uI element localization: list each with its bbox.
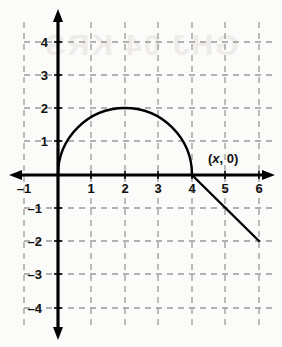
y-tick-label-neg1: –1 [20,202,42,215]
coordinate-plane [0,0,282,347]
x-tick-label-1: 1 [80,182,102,195]
y-tick-label-neg2: –2 [20,235,42,248]
x-tick-label-neg1: –1 [13,182,35,195]
x-tick-label-2: 2 [114,182,136,195]
y-tick-label-neg3: –3 [20,268,42,281]
x-axis-arrow-left [9,170,22,180]
annotation-suffix: , 0) [220,151,239,166]
y-tick-label-2: 2 [26,102,48,115]
x-axis-point-label: (x, 0) [208,152,238,165]
annotation-variable: x [212,151,219,166]
x-tick-label-3: 3 [147,182,169,195]
x-tick-label-6: 6 [248,182,270,195]
axes [9,9,275,340]
x-axis-arrow-right [262,170,275,180]
y-tick-label-3: 3 [26,69,48,82]
x-tick-label-5: 5 [214,182,236,195]
y-tick-label-4: 4 [26,36,48,49]
y-axis-arrow-down [53,327,63,340]
y-tick-label-1: 1 [26,135,48,148]
y-axis-arrow-up [53,9,63,22]
x-tick-label-4: 4 [181,182,203,195]
graph-figure: GHJ 04 KRS [0,0,282,347]
y-tick-label-neg4: –4 [20,302,42,315]
